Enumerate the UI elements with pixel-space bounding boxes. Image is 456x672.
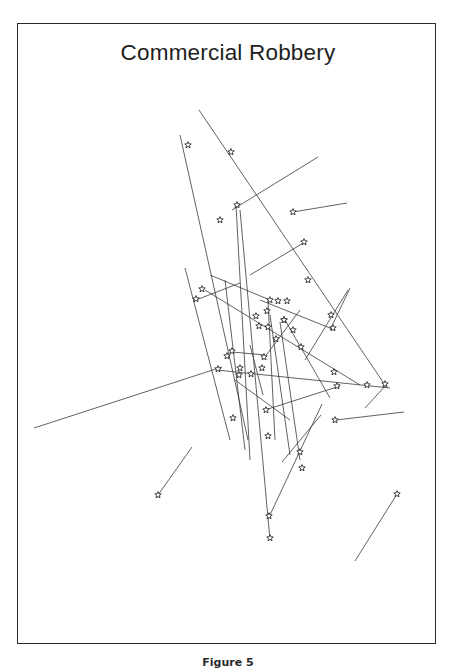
journey-line <box>158 447 192 495</box>
journey-line <box>305 290 348 360</box>
star-icon <box>290 327 296 333</box>
journey-line <box>34 367 222 428</box>
star-icon <box>332 417 338 423</box>
star-icon <box>256 323 262 329</box>
journey-line <box>270 404 322 515</box>
star-icon <box>267 535 273 541</box>
star-icon <box>284 298 290 304</box>
star-icon <box>328 312 334 318</box>
star-icon <box>265 433 271 439</box>
star-icon <box>364 382 370 388</box>
star-icon <box>253 313 259 319</box>
star-icon <box>290 209 296 215</box>
star-icon <box>331 369 337 375</box>
star-icon <box>305 277 311 283</box>
journey-line <box>185 268 230 440</box>
star-icon <box>299 465 305 471</box>
star-icon <box>234 202 240 208</box>
journey-lines <box>34 110 404 561</box>
star-icon <box>264 308 270 314</box>
star-icon <box>330 325 336 331</box>
star-icon <box>248 371 254 377</box>
robbery-site-markers <box>155 142 400 541</box>
star-icon <box>217 217 223 223</box>
journey-line <box>280 322 300 460</box>
journey-line <box>355 494 397 561</box>
figure-caption: Figure 5 <box>0 656 456 669</box>
star-icon <box>394 491 400 497</box>
journey-line <box>265 386 340 410</box>
journey-line <box>196 283 240 300</box>
star-icon <box>297 449 303 455</box>
journey-plot <box>0 0 456 672</box>
journey-line <box>250 242 305 275</box>
star-icon <box>275 298 281 304</box>
journey-line <box>293 203 347 212</box>
star-icon <box>265 324 271 330</box>
journey-line <box>268 300 275 440</box>
star-icon <box>259 365 265 371</box>
star-icon <box>185 142 191 148</box>
star-icon <box>230 415 236 421</box>
star-icon <box>199 286 205 292</box>
journey-line <box>232 157 318 210</box>
journey-line <box>225 280 245 450</box>
star-icon <box>263 407 269 413</box>
star-icon <box>215 366 221 372</box>
star-icon <box>266 513 272 519</box>
journey-line <box>336 412 404 420</box>
star-icon <box>229 348 235 354</box>
journey-line <box>232 352 265 355</box>
star-icon <box>155 492 161 498</box>
star-icon <box>237 365 243 371</box>
star-icon <box>224 353 230 359</box>
